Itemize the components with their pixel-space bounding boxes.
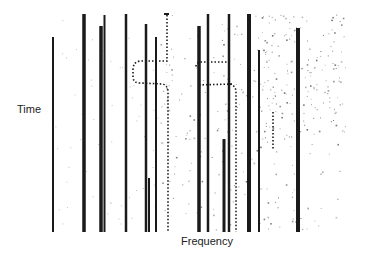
x-axis-label: Frequency xyxy=(181,235,233,247)
frequency-line xyxy=(197,26,201,232)
dotted-trajectory xyxy=(133,15,168,232)
frequency-line xyxy=(145,24,148,232)
frequency-line xyxy=(99,26,103,232)
frequency-line xyxy=(223,139,226,232)
frequency-line xyxy=(258,50,260,232)
frequency-line xyxy=(82,14,86,232)
frequency-line xyxy=(296,28,300,232)
frequency-line xyxy=(228,14,231,232)
frequency-line xyxy=(247,14,251,232)
spectrogram-plot xyxy=(0,0,381,254)
frequency-lines xyxy=(52,13,300,232)
frequency-line xyxy=(148,178,150,232)
dotted-trajectory xyxy=(196,62,230,67)
frequency-line xyxy=(125,14,128,232)
dotted-trajectory xyxy=(198,84,232,85)
frequency-line xyxy=(52,37,54,232)
frequency-line xyxy=(104,15,106,232)
dotted-trajectory xyxy=(230,84,236,232)
frequency-line xyxy=(207,14,210,232)
y-axis-label: Time xyxy=(17,103,41,115)
frequency-line xyxy=(155,37,157,232)
dotted-trajectories xyxy=(133,15,273,232)
